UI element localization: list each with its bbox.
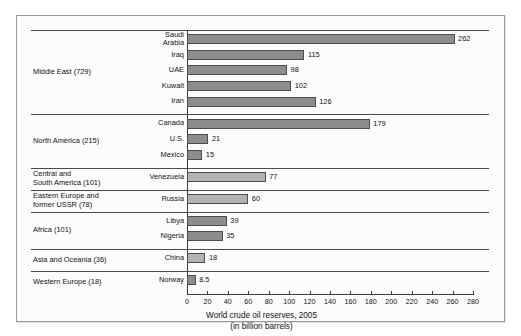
- bar-category-label-line: Russia: [135, 195, 184, 203]
- chart-bar: [187, 34, 455, 44]
- chart-bar: [187, 65, 287, 75]
- bar-category-label: Mexico: [135, 151, 184, 159]
- axis-horizontal-line: [187, 294, 474, 295]
- axis-tick: [269, 291, 270, 294]
- axis-tick: [350, 291, 351, 294]
- axis-tick: [412, 291, 413, 294]
- bar-value-label: 39: [230, 216, 238, 226]
- axis-tick-label: 260: [443, 297, 463, 306]
- bar-category-label-line: Nigeria: [135, 232, 184, 240]
- axis-tick: [289, 291, 290, 294]
- axis-tick: [391, 291, 392, 294]
- chart-bar: [187, 253, 205, 263]
- chart-bar-row: Canada179: [17, 118, 478, 130]
- axis-tick: [453, 291, 454, 294]
- bar-category-label: Kuwait: [135, 82, 184, 90]
- bar-category-label: Venezuela: [135, 173, 184, 181]
- bar-track: 77: [187, 171, 478, 183]
- bar-value-label: 77: [269, 172, 277, 182]
- axis-tick-label: 160: [340, 297, 360, 306]
- chart-bar-row: Russia60: [17, 193, 478, 205]
- bar-value-label: 35: [226, 231, 234, 241]
- chart-bar-row: Libya39: [17, 215, 478, 227]
- axis-tick: [207, 291, 208, 294]
- chart-bar: [187, 194, 248, 204]
- axis-tick-label: 120: [300, 297, 320, 306]
- bar-category-label: UAE: [135, 66, 184, 74]
- bar-track: 98: [187, 64, 478, 76]
- chart-bar: [187, 150, 202, 160]
- axis-tick-label: 140: [320, 297, 340, 306]
- bar-track: 15: [187, 149, 478, 161]
- chart-bar: [187, 50, 304, 60]
- bar-value-label: 8.5: [199, 275, 209, 285]
- bar-value-label: 102: [295, 81, 307, 91]
- axis-tick-label: 280: [463, 297, 483, 306]
- group-separator-rule: [31, 212, 489, 213]
- bar-category-label-line: UAE: [135, 66, 184, 74]
- axis-tick-label: 100: [279, 297, 299, 306]
- chart-bar-row: Norway8.5: [17, 274, 478, 286]
- chart-bar-row: UAE98: [17, 64, 478, 76]
- chart-bar: [187, 231, 223, 241]
- bar-track: 39: [187, 215, 478, 227]
- chart-bar-row: SaudiArabia262: [17, 33, 478, 45]
- chart-plot-area: Middle East (729)SaudiArabia262Iraq115UA…: [17, 16, 506, 323]
- bar-track: 126: [187, 96, 478, 108]
- bar-category-label-line: Mexico: [135, 151, 184, 159]
- caption-line-1: World crude oil reserves, 2005: [17, 311, 506, 322]
- bar-track: 18: [187, 252, 478, 264]
- axis-tick: [330, 291, 331, 294]
- bar-category-label: Nigeria: [135, 232, 184, 240]
- bar-value-label: 21: [212, 134, 220, 144]
- bar-value-label: 262: [458, 34, 470, 44]
- chart-bar-row: Iraq115: [17, 49, 478, 61]
- group-separator-rule: [31, 249, 489, 250]
- axis-tick-label: 0: [177, 297, 197, 306]
- axis-tick-label: 20: [197, 297, 217, 306]
- bar-category-label: Russia: [135, 195, 184, 203]
- bar-value-label: 15: [206, 150, 214, 160]
- bar-category-label: Norway: [135, 276, 184, 284]
- axis-tick: [310, 291, 311, 294]
- axis-tick-label: 80: [259, 297, 279, 306]
- bar-track: 262: [187, 33, 478, 45]
- chart-bar-row: U.S.21: [17, 133, 478, 145]
- axis-tick: [432, 291, 433, 294]
- bar-category-label-line: Venezuela: [135, 173, 184, 181]
- group-separator-rule: [31, 271, 489, 272]
- axis-tick-label: 60: [238, 297, 258, 306]
- chart-bar-row: Kuwait102: [17, 80, 478, 92]
- group-separator-rule: [31, 114, 489, 115]
- bar-track: 35: [187, 230, 478, 242]
- bar-category-label: China: [135, 254, 184, 262]
- caption-line-2: (in billion barrels): [17, 322, 506, 333]
- axis-tick: [187, 291, 188, 294]
- chart-bar-row: Iran126: [17, 96, 478, 108]
- axis-tick: [371, 291, 372, 294]
- axis-tick: [228, 291, 229, 294]
- chart-caption: World crude oil reserves, 2005 (in billi…: [17, 311, 506, 332]
- bar-category-label-line: Norway: [135, 276, 184, 284]
- bar-track: 115: [187, 49, 478, 61]
- bar-value-label: 18: [209, 253, 217, 263]
- bar-category-label: Iraq: [135, 51, 184, 59]
- bar-category-label: SaudiArabia: [135, 31, 184, 47]
- bar-category-label-line: China: [135, 254, 184, 262]
- bar-category-label: U.S.: [135, 135, 184, 143]
- axis-tick-label: 40: [218, 297, 238, 306]
- chart-bar: [187, 172, 266, 182]
- bar-track: 179: [187, 118, 478, 130]
- bar-value-label: 126: [319, 97, 331, 107]
- bar-category-label: Iran: [135, 97, 184, 105]
- chart-bar: [187, 275, 196, 285]
- bar-value-label: 179: [373, 119, 385, 129]
- group-separator-rule: [31, 190, 489, 191]
- bar-category-label-line: U.S.: [135, 135, 184, 143]
- bar-category-label-line: Iraq: [135, 51, 184, 59]
- group-separator-rule: [31, 30, 489, 31]
- bar-category-label-line: Canada: [135, 119, 184, 127]
- chart-bar-row: Venezuela77: [17, 171, 478, 183]
- bar-category-label: Canada: [135, 119, 184, 127]
- chart-bar: [187, 81, 291, 91]
